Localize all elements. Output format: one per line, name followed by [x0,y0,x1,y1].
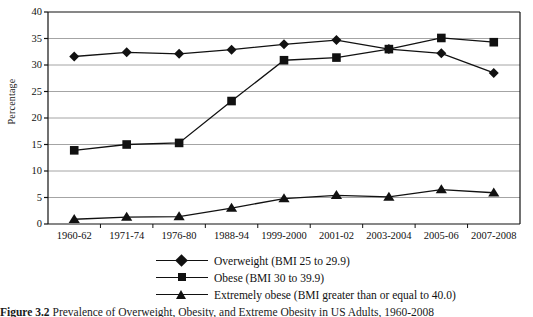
square-marker-icon [156,271,208,285]
chart-series-layer [69,34,500,223]
chart-legend: Overweight (BMI 25 to 29.9) Obese (BMI 3… [0,252,533,303]
legend-item-overweight: Overweight (BMI 25 to 29.9) [0,252,533,269]
series-2 [69,184,500,223]
triangle-marker-icon [156,288,208,302]
figure-caption: Figure 3.2 Prevalence of Overweight, Obe… [0,306,533,317]
caption-text: Prevalence of Overweight, Obesity, and E… [53,306,435,317]
legend-label-obese: Obese (BMI 30 to 39.9) [214,272,324,284]
legend-label-overweight: Overweight (BMI 25 to 29.9) [214,255,350,267]
series-1 [70,34,498,155]
chart-plot-area: Percentage 40 35 30 25 20 15 10 5 0 1960… [0,0,533,250]
legend-item-obese: Obese (BMI 30 to 39.9) [0,269,533,286]
figure-number: Figure 3.2 [0,306,50,317]
figure: Percentage 40 35 30 25 20 15 10 5 0 1960… [0,0,533,317]
diamond-marker-icon [156,254,208,268]
legend-item-extremely-obese: Extremely obese (BMI greater than or equ… [0,286,533,303]
legend-label-extremely-obese: Extremely obese (BMI greater than or equ… [214,289,456,301]
x-tick-2007-2008: 2007-2008 [454,230,533,241]
chart-svg [0,0,533,250]
